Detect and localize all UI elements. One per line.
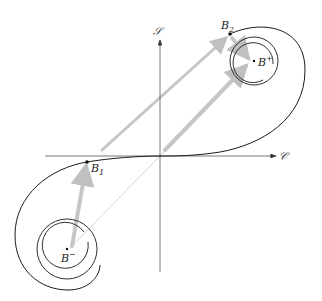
point-b-minus bbox=[66, 248, 68, 250]
horizontal-axis-label: 𝒞 bbox=[279, 150, 290, 163]
label-b1: B1 bbox=[90, 162, 104, 177]
point-b1 bbox=[85, 160, 89, 164]
diagram-canvas: 𝒮 𝒞 B2 B1 B+ B− bbox=[0, 0, 322, 301]
label-b-plus: B+ bbox=[257, 54, 273, 69]
point-b-plus bbox=[253, 60, 255, 62]
vertical-axis-label: 𝒮 bbox=[153, 25, 165, 38]
thin-guide-lines bbox=[70, 36, 248, 248]
label-b-minus: B− bbox=[60, 250, 76, 265]
label-b2: B2 bbox=[220, 19, 234, 34]
